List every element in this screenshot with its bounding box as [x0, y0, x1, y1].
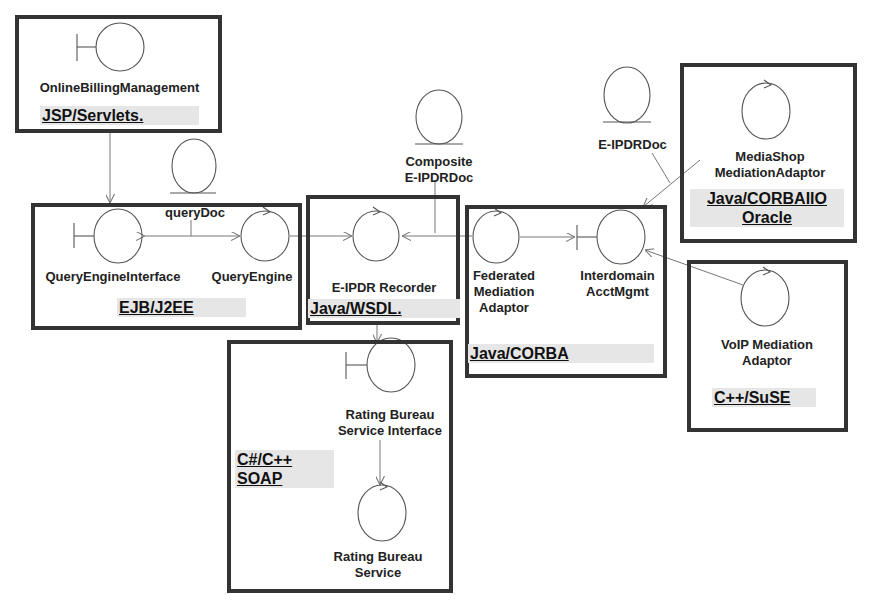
tech-label-corba: Java/CORBA [468, 344, 654, 363]
fma-line2: Mediation [463, 284, 545, 300]
component-label-online-billing: OnlineBillingManagement [22, 80, 217, 96]
tech-label-corbaiio: Java/CORBAIIO Oracle [690, 189, 844, 227]
fma-line1: Federated [463, 268, 545, 284]
tech-label-jsp: JSP/Servlets. [40, 106, 199, 125]
voip-line2: Adaptor [692, 353, 842, 369]
iam-line2: AcctMgmt [570, 284, 665, 300]
rating-tech-line1: C#/C++ [237, 450, 332, 469]
component-label-recorder: E-IPDR Recorder [314, 280, 454, 296]
tech-label-ejb: EJB/J2EE [117, 298, 246, 317]
component-label-federated-mediation: Federated Mediation Adaptor [463, 268, 545, 316]
component-label-voip: VoIP Mediation Adaptor [692, 337, 842, 369]
rbs-line2: Service [318, 565, 438, 581]
component-label-query-engine-interface: QueryEngineInterface [33, 269, 193, 285]
voip-line1: VoIP Mediation [692, 337, 842, 353]
connector-eipdrdoc [652, 153, 670, 183]
component-label-rating-service: Rating Bureau Service [318, 549, 438, 581]
rbs-line1: Rating Bureau [318, 549, 438, 565]
msma-tech-line1: Java/CORBAIIO [692, 189, 842, 208]
entity-label-eipdrdoc: E-IPDRDoc [590, 137, 675, 153]
msma-line2: MediationAdaptor [690, 165, 850, 181]
tech-label-suse: C++/SuSE [712, 388, 816, 407]
entity-label-composite-line1: Composite [393, 154, 485, 170]
entity-icon [415, 90, 463, 144]
component-label-query-engine: QueryEngine [202, 269, 302, 285]
rbsi-line1: Rating Bureau [325, 407, 455, 423]
tech-label-wsdl: Java/WSDL. [308, 299, 460, 318]
entity-label-composite: Composite E-IPDRDoc [393, 154, 485, 186]
component-label-interdomain: Interdomain AcctMgmt [570, 268, 665, 300]
entity-icon [170, 139, 216, 193]
fma-line3: Adaptor [463, 300, 545, 316]
msma-tech-line2: Oracle [692, 208, 842, 227]
tech-label-soap: C#/C++ SOAP [235, 450, 334, 488]
entity-label-querydoc: queryDoc [160, 205, 230, 221]
component-label-mediashop: MediaShop MediationAdaptor [690, 149, 850, 181]
msma-line1: MediaShop [690, 149, 850, 165]
entity-icon [603, 67, 651, 123]
component-label-rating-interface: Rating Bureau Service Interface [325, 407, 455, 439]
entity-label-composite-line2: E-IPDRDoc [393, 170, 485, 186]
iam-line1: Interdomain [570, 268, 665, 284]
rating-tech-line2: SOAP [237, 469, 332, 488]
rbsi-line2: Service Interface [325, 423, 455, 439]
